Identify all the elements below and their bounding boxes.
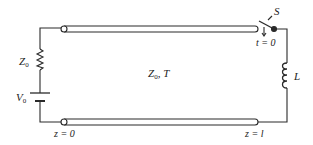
left-source-wire: [40, 28, 62, 122]
bottom-conductor: [61, 119, 258, 125]
switch-icon: [259, 16, 277, 36]
source-impedance-label: Z0: [19, 56, 29, 69]
line-delay-symbol: , T: [158, 67, 170, 79]
source-voltage-symbol: V: [16, 91, 23, 103]
inductor-icon: [283, 63, 288, 88]
switch-label: S: [274, 6, 280, 17]
source-voltage-label: V0: [16, 92, 26, 105]
line-parameters-label: Z0, T: [148, 68, 169, 81]
inductor-label: L: [294, 71, 300, 82]
source-impedance-subscript: 0: [25, 61, 29, 69]
resistor-icon: [37, 49, 43, 70]
switch-time-label: t = 0: [256, 38, 276, 48]
z-end-label: z = l: [245, 129, 263, 139]
top-conductor: [61, 26, 258, 32]
battery-icon: [30, 93, 50, 101]
z-start-label: z = 0: [54, 129, 75, 139]
source-voltage-subscript: 0: [23, 97, 27, 105]
circuit-diagram: Z0 V0 Z0, T S t = 0 L z = 0 z = l: [0, 0, 313, 145]
